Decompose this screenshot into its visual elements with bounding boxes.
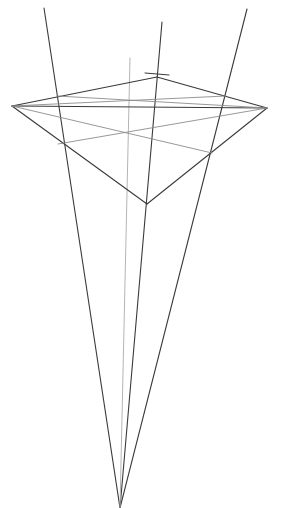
perspective-drawing-canvas	[0, 0, 282, 508]
perspective-drawing	[0, 0, 282, 508]
drawing-background	[0, 0, 282, 508]
